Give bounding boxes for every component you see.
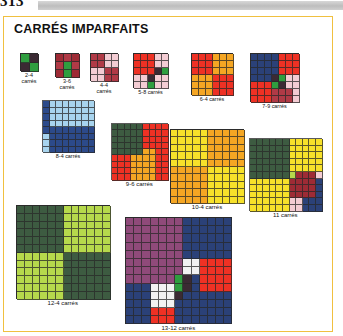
grid-cell [25, 276, 33, 284]
grid-cell [134, 308, 142, 316]
grid-cell [316, 139, 323, 146]
grid-cell [178, 182, 185, 189]
grid-cell [283, 172, 290, 179]
grid-cell [148, 68, 155, 75]
grid-cell [178, 152, 185, 159]
grid-cell [192, 226, 200, 234]
grid-cell [250, 179, 257, 186]
grid-cell [192, 68, 199, 75]
grid-cell [17, 245, 25, 253]
grid-cell [208, 284, 216, 292]
grid-cell [216, 234, 224, 242]
grid-cell [151, 251, 159, 259]
grid-cell [296, 139, 303, 146]
grid-cell [142, 234, 150, 242]
square-grid [42, 100, 94, 152]
grid-cell [186, 197, 193, 204]
grid-cell [216, 218, 224, 226]
grid-cell [201, 152, 208, 159]
grid-cell [296, 205, 303, 212]
figure-fig-9-6: 9-6 carrés [111, 123, 168, 188]
grid-cell [250, 159, 257, 166]
grid-cell [40, 237, 48, 245]
grid-cell [175, 300, 183, 308]
grid-cell [72, 284, 80, 292]
grid-cell [224, 251, 232, 259]
grid-cell [257, 152, 264, 159]
grid-cell [183, 218, 191, 226]
grid-cell [279, 68, 286, 75]
grid-cell [223, 130, 230, 137]
grid-cell [296, 159, 303, 166]
grid-cell [213, 75, 220, 82]
figure-fig-4-4: 4-4 carrés [90, 53, 118, 94]
grid-cell [296, 179, 303, 186]
grid-cell [142, 275, 150, 283]
grid-cell [192, 54, 199, 61]
grid-cell [303, 159, 310, 166]
grid-cell [112, 61, 119, 68]
grid-cell [251, 61, 258, 68]
grid-cell [72, 54, 80, 62]
grid-cell [183, 226, 191, 234]
grid-cell [91, 75, 98, 82]
grid-cell [33, 276, 41, 284]
grid-cell [171, 130, 178, 137]
grid-cell [134, 300, 142, 308]
grid-cell [224, 275, 232, 283]
grid-cell [290, 192, 297, 199]
grid-cell [95, 261, 103, 269]
grid-cell [48, 276, 56, 284]
grid-cell [17, 253, 25, 261]
grid-cell [258, 89, 265, 96]
grid-cell [223, 152, 230, 159]
grid-cell [64, 206, 72, 214]
grid-cell [208, 182, 215, 189]
grid-cell [316, 172, 323, 179]
figure-fig-6-4: 6-4 carrés [191, 53, 233, 102]
grid-cell [64, 214, 72, 222]
grid-cell [142, 308, 150, 316]
grid-cell [216, 316, 224, 324]
figure-fig-7-9: 7-9 carrés [250, 53, 299, 109]
grid-cell [178, 167, 185, 174]
grid-cell [283, 179, 290, 186]
grid-cell [91, 68, 98, 75]
grid-cell [17, 222, 25, 230]
page-number: 313 [0, 0, 24, 10]
grid-cell [64, 237, 72, 245]
grid-cell [227, 54, 234, 61]
grid-cell [72, 245, 80, 253]
grid-cell [48, 237, 56, 245]
grid-cell [250, 198, 257, 205]
grid-cell [186, 174, 193, 181]
grid-cell [309, 192, 316, 199]
grid-cell [206, 54, 213, 61]
grid-cell [290, 179, 297, 186]
grid-cell [56, 54, 64, 62]
grid-cell [64, 229, 72, 237]
grid-cell [290, 185, 297, 192]
grid-cell [220, 68, 227, 75]
grid-cell [208, 275, 216, 283]
grid-cell [17, 284, 25, 292]
figure-caption: 7-9 carrés [250, 103, 299, 109]
grid-cell [224, 218, 232, 226]
grid-cell [151, 292, 159, 300]
grid-cell [64, 253, 72, 261]
grid-cell [296, 165, 303, 172]
grid-cell [79, 229, 87, 237]
grid-cell [216, 243, 224, 251]
grid-cell [208, 267, 216, 275]
grid-cell [303, 205, 310, 212]
grid-cell [21, 63, 30, 72]
grid-cell [186, 160, 193, 167]
grid-cell [25, 214, 33, 222]
grid-cell [227, 68, 234, 75]
grid-cell [162, 61, 169, 68]
grid-cell [257, 139, 264, 146]
grid-cell [40, 229, 48, 237]
grid-cell [199, 54, 206, 61]
grid-cell [95, 268, 103, 276]
grid-cell [87, 222, 95, 230]
